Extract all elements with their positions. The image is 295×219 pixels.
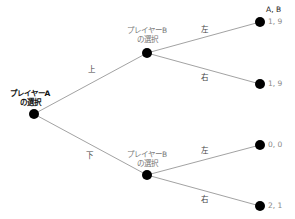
edge-label-upper-right: 右 [201,73,208,82]
edge-label-down: 下 [86,151,93,160]
payoff-leaf-3: 0, 0 [268,140,282,149]
lower-decision-node [142,170,152,180]
upper-decision-node [142,48,152,58]
leaf-node-3 [255,140,265,150]
edge-label-lower-right: 右 [201,195,208,204]
payoff-leaf-1: 1, 9 [268,17,282,26]
upper-node-label: プレイヤーB の選択 [127,26,167,44]
lower-node-label: プレイヤーB の選択 [127,150,167,168]
payoff-leaf-4: 2, 1 [268,201,282,210]
edge-label-upper-left: 左 [201,25,208,34]
leaf-node-1 [255,17,265,27]
payoff-header: A, B [266,5,281,14]
leaf-node-2 [255,79,265,89]
leaf-node-4 [255,201,265,211]
payoff-leaf-2: 1, 9 [268,79,282,88]
edge-label-up: 上 [88,65,95,74]
edge-up [34,53,147,114]
edge-label-lower-left: 左 [201,146,208,155]
root-node [29,109,39,119]
root-label: プレイヤーA の選択 [10,89,51,107]
